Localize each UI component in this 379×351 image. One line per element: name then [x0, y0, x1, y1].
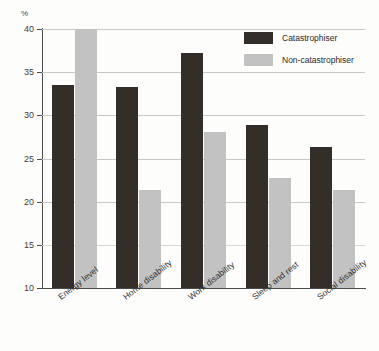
y-axis-tick-label: 20	[8, 197, 34, 207]
y-axis-unit-label: %	[21, 9, 28, 18]
bar-catastrophiser	[116, 87, 138, 288]
y-axis-tick-label: 15	[8, 240, 34, 250]
bar-catastrophiser	[246, 125, 268, 288]
y-axis-tick-label: 10	[8, 283, 34, 293]
y-axis-tick-label: 35	[8, 67, 34, 77]
bar-catastrophiser	[310, 147, 332, 288]
legend-swatch-light-icon	[244, 54, 273, 66]
legend-label-non-catastrophiser: Non-catastrophiser	[282, 55, 354, 65]
bar-non-catastrophiser	[75, 29, 97, 288]
bar-catastrophiser	[52, 85, 74, 288]
legend-swatch-dark-icon	[244, 32, 273, 44]
y-axis-tick-label: 25	[8, 154, 34, 164]
legend: Catastrophiser Non-catastrophiser	[244, 28, 368, 72]
legend-label-catastrophiser: Catastrophiser	[282, 33, 337, 43]
y-axis-tick-label: 30	[8, 110, 34, 120]
legend-item-non-catastrophiser: Non-catastrophiser	[244, 50, 368, 70]
bar-catastrophiser	[181, 53, 203, 288]
y-axis-tick-label: 40	[8, 24, 34, 34]
legend-item-catastrophiser: Catastrophiser	[244, 28, 368, 48]
y-axis-tick-mark	[37, 288, 42, 289]
bar-chart: % 40353025201510 Energy levelHome disabi…	[0, 0, 379, 351]
